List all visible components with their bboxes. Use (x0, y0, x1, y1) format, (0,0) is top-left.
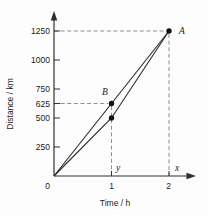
y-tick-label-1000: 1000 (31, 55, 50, 65)
foot-label-x: x (174, 163, 180, 173)
point-B-label: B (102, 87, 108, 97)
y-tick-label-250: 250 (36, 142, 50, 152)
point-A-dot (166, 28, 171, 33)
y-tick-label-750: 750 (36, 84, 50, 94)
x-axis-arrowhead-icon (187, 173, 197, 180)
point-B-dot (109, 101, 114, 106)
axes (54, 18, 191, 176)
y-axis-arrowhead-icon (51, 11, 58, 21)
x-tick-label-0: 0 (45, 181, 50, 191)
y-tick-label-500: 500 (36, 113, 50, 123)
point-500-dot (109, 115, 114, 120)
x-tick-labels: 0 1 2 (45, 181, 171, 191)
distance-time-graph: 1250 1000 750 625 500 250 0 1 2 Time / h… (0, 0, 208, 215)
y-tick-labels: 1250 1000 750 625 500 250 (31, 26, 50, 152)
foot-label-y: y (115, 163, 121, 173)
point-A-label: A (178, 26, 185, 36)
x-tick-label-1: 1 (109, 181, 114, 191)
y-axis-title: Distance / km (5, 78, 15, 130)
chart-canvas: 1250 1000 750 625 500 250 0 1 2 Time / h… (0, 0, 208, 215)
y-tick-label-1250: 1250 (31, 26, 50, 36)
y-tick-label-625: 625 (36, 99, 50, 109)
x-tick-label-2: 2 (166, 181, 171, 191)
x-axis-title: Time / h (100, 198, 131, 208)
